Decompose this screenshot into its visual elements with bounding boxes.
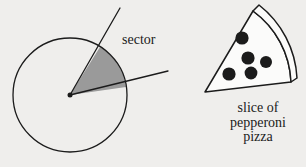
pizza-caption-line-3: pizza	[210, 130, 306, 145]
pepperoni-slice	[241, 51, 254, 64]
circle-center-dot	[68, 93, 73, 98]
figure-root: sector slice of pepperoni pizza	[0, 0, 306, 167]
pizza-caption-line-2: pepperoni	[210, 116, 306, 131]
pepperoni-slice	[245, 67, 258, 80]
pizza-slice-group	[205, 5, 297, 92]
circle-with-sector-group	[13, 8, 168, 152]
pizza-caption-line-1: slice of	[210, 101, 306, 116]
pepperoni-slice	[222, 67, 235, 80]
pizza-caption: slice of pepperoni pizza	[210, 101, 306, 145]
sector-label: sector	[122, 33, 155, 48]
pepperoni-slice	[235, 31, 248, 44]
pepperoni-slice	[260, 56, 272, 68]
